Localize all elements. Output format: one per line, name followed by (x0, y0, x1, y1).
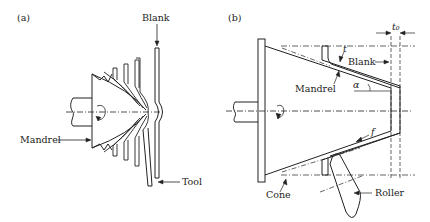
label-t0: t₀ (392, 22, 400, 32)
roller-b (330, 154, 361, 218)
flange-plate (258, 39, 265, 182)
panel-b-tag: (b) (228, 13, 242, 23)
label-alpha: α (353, 80, 359, 90)
label-mandrel-b: Mandrel (295, 84, 336, 94)
panel-a-drawing (58, 24, 180, 186)
label-tool-a: Tool (182, 177, 202, 187)
label-t: t (343, 44, 347, 54)
shaft-b (233, 102, 258, 122)
tool-a (143, 128, 152, 186)
blank-a (155, 48, 163, 178)
diagram-drawing (0, 0, 430, 222)
label-roller: Roller (375, 188, 404, 198)
label-cone: Cone (266, 190, 291, 200)
label-blank-a: Blank (142, 13, 170, 23)
metal-spinning-diagram: (a) Blank Mandrel Tool (b) t₀ t Blank Ma… (0, 0, 430, 222)
label-f: f (371, 127, 375, 137)
label-mandrel-a: Mandrel (20, 135, 61, 145)
label-blank-b: Blank (348, 57, 376, 67)
panel-a-tag: (a) (17, 13, 30, 23)
